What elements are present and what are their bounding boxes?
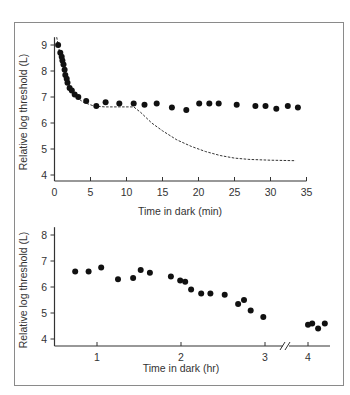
- data-point: [295, 104, 301, 110]
- bottom-x-tick-label: 3: [262, 351, 268, 363]
- data-point: [285, 103, 291, 109]
- data-point: [235, 301, 241, 307]
- top-x-tick-label: 10: [121, 186, 133, 198]
- top-data-points: [55, 42, 301, 113]
- data-point: [55, 42, 61, 48]
- top-y-tick-label: 6: [41, 117, 47, 129]
- data-point: [72, 268, 78, 274]
- data-point: [103, 99, 109, 105]
- data-point: [260, 314, 266, 320]
- top-y-tick-label: 5: [41, 143, 47, 155]
- top-y-tick-label: 7: [41, 91, 47, 103]
- data-point: [177, 278, 183, 284]
- top-dashed-curve: [57, 37, 296, 161]
- data-point: [206, 101, 212, 107]
- data-point: [216, 101, 222, 107]
- top-x-tick-label: 25: [229, 186, 241, 198]
- top-y-tick-label: 8: [41, 65, 47, 77]
- data-point: [322, 320, 328, 326]
- data-point: [309, 320, 315, 326]
- data-point: [138, 267, 144, 273]
- top-x-tick-label: 20: [193, 186, 205, 198]
- bottom-data-points: [72, 265, 328, 332]
- bottom-x-axis-title: Time in dark (hr): [143, 362, 220, 374]
- data-point: [62, 67, 68, 73]
- top-x-tick-label: 0: [52, 186, 58, 198]
- top-axes: 45678905101520253035: [41, 37, 312, 198]
- data-point: [183, 107, 189, 113]
- top-x-tick-label: 5: [88, 186, 94, 198]
- data-point: [188, 287, 194, 293]
- dark-adaptation-figure: 45678905101520253035 Time in dark (min) …: [0, 0, 350, 395]
- data-point: [169, 104, 175, 110]
- data-point: [222, 292, 228, 298]
- bottom-x-tick-label: 4: [305, 351, 311, 363]
- top-x-tick-label: 30: [265, 186, 277, 198]
- bottom-y-axis-title: Relative log threshold (L): [17, 232, 29, 349]
- data-point: [98, 265, 104, 271]
- data-point: [115, 276, 121, 282]
- bottom-y-tick-label: 6: [41, 281, 47, 293]
- data-point: [252, 103, 258, 109]
- data-point: [130, 275, 136, 281]
- bottom-y-tick-label: 8: [41, 229, 47, 241]
- data-point: [83, 98, 89, 104]
- data-point: [315, 326, 321, 332]
- data-point: [168, 274, 174, 280]
- data-point: [93, 103, 99, 109]
- top-chart-min: 45678905101520253035 Time in dark (min) …: [17, 37, 312, 217]
- data-point: [182, 279, 188, 285]
- bottom-y-tick-label: 7: [41, 255, 47, 267]
- top-x-tick-label: 35: [301, 186, 313, 198]
- top-x-axis-title: Time in dark (min): [138, 205, 222, 217]
- data-point: [61, 62, 67, 68]
- data-point: [116, 101, 122, 107]
- data-point: [65, 80, 71, 86]
- bottom-axes: 456781234: [41, 227, 330, 363]
- data-point: [75, 94, 81, 100]
- top-y-tick-label: 4: [41, 169, 47, 181]
- data-point: [273, 106, 279, 112]
- bottom-y-tick-label: 5: [41, 307, 47, 319]
- top-y-axis-title: Relative log threshold (L): [17, 54, 29, 171]
- data-point: [196, 101, 202, 107]
- data-point: [241, 297, 247, 303]
- data-point: [154, 101, 160, 107]
- data-point: [198, 291, 204, 297]
- data-point: [147, 270, 153, 276]
- top-y-tick-label: 9: [41, 39, 47, 51]
- data-point: [86, 268, 92, 274]
- data-point: [142, 102, 148, 108]
- top-x-tick-label: 15: [157, 186, 169, 198]
- bottom-y-tick-label: 4: [41, 333, 47, 345]
- bottom-x-tick-label: 1: [94, 351, 100, 363]
- data-point: [131, 101, 137, 107]
- data-point: [207, 291, 213, 297]
- data-point: [234, 102, 240, 108]
- data-point: [248, 307, 254, 313]
- bottom-chart-hr: 456781234 Time in dark (hr) Relative log…: [17, 227, 330, 374]
- data-point: [263, 103, 269, 109]
